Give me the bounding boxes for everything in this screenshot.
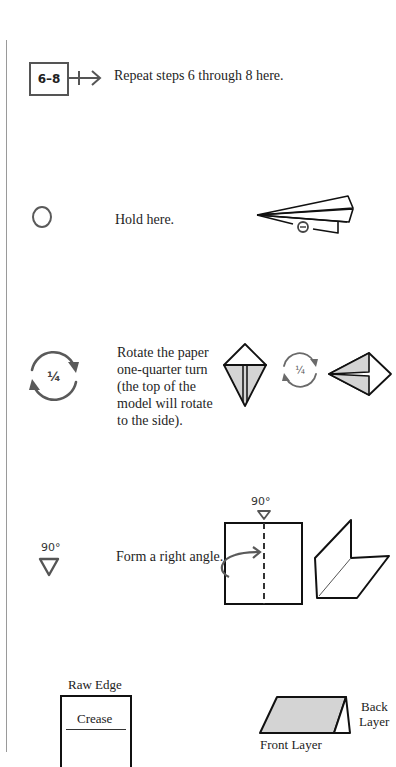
rotate-quarter-icon: ¼: [26, 348, 82, 404]
square-fold-diagram: [215, 521, 305, 607]
hold-circle-icon: [32, 206, 52, 228]
right-angle-result-diagram: [313, 518, 393, 604]
svg-text:¼: ¼: [295, 365, 305, 376]
symbol-row-rotate: ¼ Rotate the paper one-quarter turn (the…: [0, 340, 396, 415]
hold-description: Hold here.: [115, 211, 174, 228]
raw-edge-box: [60, 695, 132, 767]
layer-legend: Raw Edge Crease Back Layer Front Layer: [0, 675, 396, 752]
repeat-arrow-icon: [67, 69, 103, 87]
rotate-description-line: one-quarter turn: [117, 361, 213, 378]
crease-label: Crease: [77, 711, 112, 726]
symbol-row-hold: Hold here.: [0, 190, 396, 240]
rotate-description-line: (the top of the: [117, 378, 213, 395]
symbol-row-right-angle: 90° Form a right angle. 90°: [0, 495, 396, 610]
rotate-description-line: Rotate the paper: [117, 344, 213, 361]
example-right-angle-triangle-icon: [257, 510, 271, 520]
rotate-description: Rotate the paper one-quarter turn (the t…: [117, 344, 213, 429]
symbol-row-repeat: 6–8 Repeat steps 6 through 8 here.: [0, 55, 396, 105]
repeat-steps-box-icon: 6–8: [29, 62, 69, 96]
example-right-angle-label: 90°: [251, 495, 271, 508]
back-layer-label-line: Layer: [359, 714, 389, 729]
right-angle-triangle-icon: [38, 557, 60, 577]
repeat-steps-range: 6–8: [38, 72, 61, 86]
back-layer-label-line: Back: [359, 699, 389, 714]
raw-edge-label: Raw Edge: [68, 677, 122, 692]
rotate-small-icon: ¼: [280, 350, 320, 390]
repeat-description: Repeat steps 6 through 8 here.: [114, 67, 284, 84]
crease-line: [66, 729, 126, 730]
kite-before-rotation-diagram: [222, 342, 268, 408]
back-layer-label: Back Layer: [359, 699, 389, 729]
kite-after-rotation-diagram: [327, 351, 393, 397]
rotate-description-line: to the side).: [117, 412, 213, 429]
rotate-description-line: model will rotate: [117, 395, 213, 412]
right-angle-label: 90°: [41, 541, 61, 554]
front-layer-label: Front Layer: [260, 737, 322, 752]
paper-airplane-hold-diagram: [255, 194, 355, 238]
right-angle-description: Form a right angle.: [116, 548, 223, 565]
layered-paper-diagram: [256, 695, 350, 739]
svg-text:¼: ¼: [47, 369, 60, 384]
